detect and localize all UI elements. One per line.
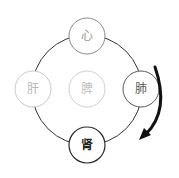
node-lung: 肺 — [123, 71, 159, 107]
node-liver: 肝 — [15, 71, 51, 107]
node-heart: 心 — [69, 18, 105, 54]
node-label-spleen: 脾 — [81, 81, 93, 96]
node-label-lung: 肺 — [135, 82, 147, 96]
node-kidney: 肾 — [69, 127, 105, 163]
organ-cycle-diagram: 心 肝 脾 肺 肾 — [0, 0, 179, 178]
node-spleen: 脾 — [69, 71, 105, 107]
node-label-heart: 心 — [81, 29, 93, 43]
node-label-liver: 肝 — [27, 82, 39, 96]
node-label-kidney: 肾 — [81, 138, 94, 152]
